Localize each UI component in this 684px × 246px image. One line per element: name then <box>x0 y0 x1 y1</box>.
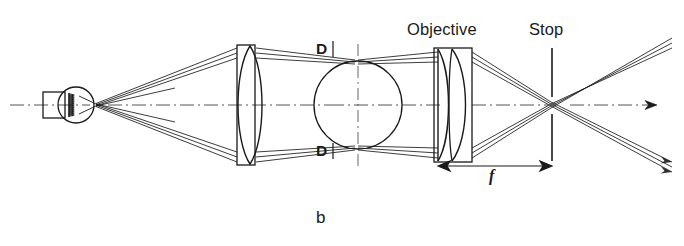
optics-drawing <box>0 0 684 246</box>
focal-length-label: f <box>489 168 494 184</box>
figure-caption: b <box>316 209 325 226</box>
aperture-label-bottom: D <box>316 143 327 159</box>
optical-figure: Objective Stop D D f b <box>0 0 684 246</box>
aperture-label-top: D <box>316 41 327 57</box>
stop-label: Stop <box>529 21 563 38</box>
objective-label: Objective <box>407 21 477 38</box>
